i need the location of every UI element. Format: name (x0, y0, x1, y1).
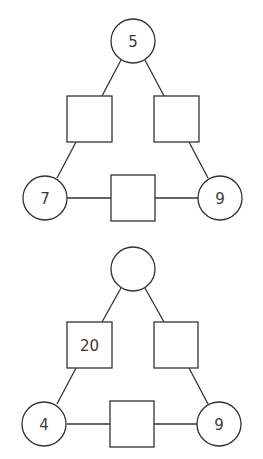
edge-top-right (145, 288, 164, 322)
bottom-right-circle-value: 9 (215, 190, 225, 208)
edge-right-bottom (189, 142, 208, 178)
edge-top-left (102, 288, 121, 322)
right-square (154, 96, 199, 142)
left-square (67, 96, 112, 142)
right-square (154, 322, 198, 368)
bottom-square (111, 175, 155, 221)
triangle-puzzle-2: 20 4 9 (22, 247, 241, 447)
edge-top-left (102, 60, 121, 96)
bottom-left-circle-value: 4 (39, 416, 49, 434)
edge-right-bottom (189, 368, 208, 404)
triangle-puzzle-1: 5 7 9 (23, 19, 242, 221)
diagram-canvas: 5 7 9 20 4 9 (0, 0, 263, 459)
edge-top-right (145, 60, 164, 96)
edge-left-bottom (57, 368, 76, 404)
edge-left-bottom (57, 142, 76, 178)
bottom-left-circle-value: 7 (40, 190, 50, 208)
bottom-square (110, 401, 154, 447)
top-circle-value: 5 (128, 33, 138, 51)
left-square-value: 20 (80, 337, 99, 355)
top-circle (111, 247, 155, 291)
bottom-right-circle-value: 9 (214, 416, 224, 434)
